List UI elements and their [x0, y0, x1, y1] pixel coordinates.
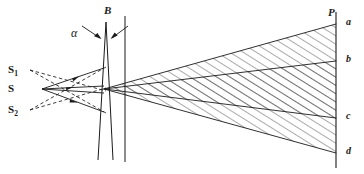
label-fringe-a: a [346, 17, 351, 27]
arrowhead-alpha-left [94, 33, 102, 39]
arrowhead-ray-lower [70, 100, 78, 103]
label-fringe-d: d [346, 146, 351, 156]
label-screen-p: P [328, 7, 335, 18]
label-fringe-b: b [346, 54, 351, 64]
biprism-left-face [98, 22, 106, 160]
virtual-source-dashed-rays [30, 67, 106, 113]
ray-diagram-svg [0, 0, 364, 174]
figure-root: S1 S S2 B α P a b c d [0, 0, 364, 174]
label-biprism-b: B [104, 5, 111, 16]
beam-lower-hatched [100, 0, 364, 174]
label-apex-angle-alpha: α [71, 27, 77, 39]
label-source-s: S [8, 83, 14, 94]
arrowhead-alpha-right [111, 33, 118, 39]
dashed-s2-ray-upper [30, 67, 106, 110]
label-fringe-c: c [346, 111, 350, 121]
arrowhead-ray-upper [72, 76, 80, 81]
label-virtual-source-s2: S2 [8, 104, 18, 118]
source-rays [42, 68, 104, 112]
label-virtual-source-s1: S1 [8, 64, 18, 78]
